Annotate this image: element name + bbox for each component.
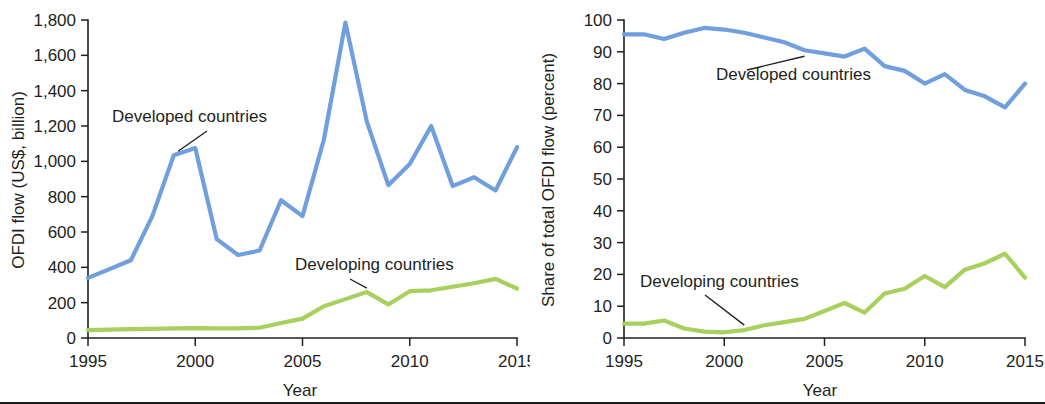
y-tick-label: 1,200 [33,117,76,136]
series-line-developed-countries [88,23,517,278]
y-tick-label: 200 [48,294,76,313]
y-tick-label: 70 [593,106,612,125]
left-x-tick-labels: 19952000200520102015 [69,352,530,371]
x-tick-label: 2010 [391,352,429,371]
left-annotations: Developed countriesDeveloping countries [112,107,454,288]
x-tick-label: 1995 [69,352,107,371]
x-tick-label: 2000 [176,352,214,371]
x-tick-label: 2010 [906,352,944,371]
annotation-leader [705,295,744,325]
series-line-developing-countries [624,254,1025,333]
y-tick-label: 100 [584,11,612,30]
right-y-axis-title: Share of total OFDI flow (percent) [539,53,558,307]
ofdi-flow-shares-plot: 0102030405060708090100 19952000200520102… [530,0,1045,404]
y-tick-label: 20 [593,265,612,284]
ofdi-flow-levels-plot: 02004006008001,0001,2001,4001,6001,800 1… [0,0,530,404]
y-tick-label: 10 [593,297,612,316]
y-tick-label: 1,800 [33,11,76,30]
series-line-developing-countries [88,279,517,330]
left-series-group [88,23,517,330]
annotation-label: Developing countries [640,272,799,291]
left-y-axis-title: OFDI flow (US$, billion) [9,91,28,269]
chart-panel-ofdi-flow-shares: 0102030405060708090100 19952000200520102… [530,0,1045,404]
y-tick-label: 60 [593,138,612,157]
y-tick-label: 1,400 [33,82,76,101]
annotation-label: Developed countries [716,65,871,84]
right-y-tick-labels: 0102030405060708090100 [584,11,612,348]
y-tick-label: 30 [593,234,612,253]
y-tick-label: 1,600 [33,46,76,65]
y-tick-label: 400 [48,258,76,277]
annotation-label: Developing countries [295,255,454,274]
y-tick-label: 1,000 [33,152,76,171]
x-tick-label: 2005 [806,352,844,371]
y-tick-label: 800 [48,188,76,207]
left-x-axis-title: Year [283,381,318,400]
x-tick-label: 1995 [605,352,643,371]
x-tick-label: 2015 [1006,352,1044,371]
right-annotations: Developed countriesDeveloping countries [640,56,871,325]
chart-panel-ofdi-flow-levels: 02004006008001,0001,2001,4001,6001,800 1… [0,0,530,404]
y-tick-label: 0 [603,329,612,348]
annotation-leader [350,279,367,288]
annotation-label: Developed countries [112,107,267,126]
y-tick-label: 90 [593,43,612,62]
x-tick-label: 2000 [705,352,743,371]
x-tick-label: 2015 [498,352,530,371]
y-tick-label: 80 [593,75,612,94]
y-tick-label: 40 [593,202,612,221]
y-tick-label: 0 [67,329,76,348]
x-tick-label: 2005 [284,352,322,371]
right-x-tick-labels: 19952000200520102015 [605,352,1044,371]
left-y-tick-labels: 02004006008001,0001,2001,4001,6001,800 [33,11,76,348]
left-axis-lines [88,20,517,338]
ofdi-figure: 02004006008001,0001,2001,4001,6001,800 1… [0,0,1045,404]
right-x-axis-title: Year [803,381,838,400]
y-tick-label: 50 [593,170,612,189]
y-tick-label: 600 [48,223,76,242]
